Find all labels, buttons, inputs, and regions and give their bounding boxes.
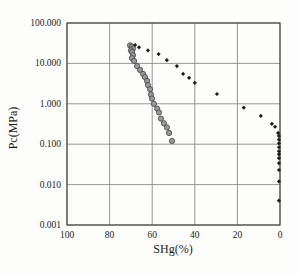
points-layer bbox=[127, 43, 281, 203]
data-point-diamond bbox=[193, 81, 197, 85]
data-point-diamond bbox=[273, 125, 277, 129]
data-point-circle bbox=[158, 116, 163, 121]
y-tick-label: 1.000 bbox=[40, 99, 62, 109]
scatter-chart-figure: 100.00010.0001.0000.1000.0100.0011008060… bbox=[0, 0, 300, 276]
data-point-diamond bbox=[187, 76, 191, 80]
data-point-diamond bbox=[215, 92, 219, 96]
grid-layer bbox=[67, 23, 280, 225]
data-point-diamond bbox=[270, 122, 274, 126]
x-tick-label: 20 bbox=[233, 230, 243, 240]
plot-border-layer bbox=[67, 23, 280, 225]
tick-label-layer: 100.00010.0001.0000.1000.0100.0011008060… bbox=[30, 18, 283, 240]
data-point-circle bbox=[151, 101, 156, 106]
data-point-diamond bbox=[156, 52, 160, 56]
data-point-diamond bbox=[175, 64, 179, 68]
data-point-circle bbox=[156, 110, 161, 115]
y-tick-label: 0.001 bbox=[40, 220, 62, 230]
x-axis-title: SHg(%) bbox=[153, 242, 192, 256]
data-point-circle bbox=[164, 125, 169, 130]
chart-canvas: 100.00010.0001.0000.1000.0100.0011008060… bbox=[0, 0, 300, 276]
x-tick-label: 100 bbox=[60, 230, 75, 240]
x-tick-label: 40 bbox=[190, 230, 200, 240]
data-point-circle bbox=[169, 138, 174, 143]
data-point-diamond bbox=[259, 114, 263, 118]
data-point-circle bbox=[149, 96, 154, 101]
data-point-diamond bbox=[181, 72, 185, 76]
y-tick-label: 10.000 bbox=[35, 58, 61, 68]
y-axis-title: Pc(MPa) bbox=[6, 107, 20, 150]
data-point-diamond bbox=[146, 48, 150, 52]
data-point-circle bbox=[131, 58, 136, 63]
x-tick-label: 0 bbox=[278, 230, 283, 240]
x-tick-label: 80 bbox=[105, 230, 115, 240]
data-point-diamond bbox=[137, 45, 141, 49]
y-tick-label: 0.010 bbox=[40, 180, 62, 190]
data-point-circle bbox=[147, 87, 152, 92]
data-point-diamond bbox=[165, 58, 169, 62]
plot-border bbox=[67, 23, 280, 225]
data-point-diamond bbox=[242, 106, 246, 110]
x-tick-label: 60 bbox=[147, 230, 157, 240]
y-tick-label: 100.000 bbox=[30, 18, 61, 28]
data-point-circle bbox=[166, 130, 171, 135]
y-tick-label: 0.100 bbox=[40, 139, 62, 149]
